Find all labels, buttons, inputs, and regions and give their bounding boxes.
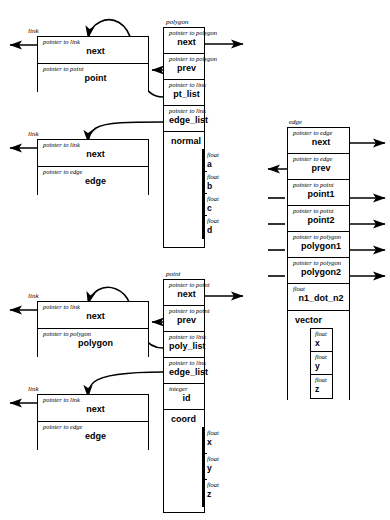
field-type: pointer to polygon (293, 233, 349, 241)
subfield-normal-c: float c (203, 194, 207, 216)
field-type: float (293, 285, 349, 293)
field-name: next (169, 37, 204, 48)
field-name: next (169, 289, 204, 300)
field-point-next: pointer to point next (164, 280, 204, 306)
field-type: pointer to edge (43, 168, 148, 176)
group-name: coord (164, 413, 204, 425)
field-type: pointer to edge (293, 129, 349, 137)
struct-point: pointer to point next pointer to point p… (163, 279, 205, 513)
field-type: pointer to link (169, 333, 204, 341)
field-link-edge-top-next: pointer to link next (38, 140, 148, 167)
field-name: prev (293, 163, 349, 174)
field-name: y (207, 463, 223, 473)
field-edge-prev: pointer to edge prev (288, 154, 349, 180)
field-edge-polygon2: pointer to polygon polygon2 (288, 258, 349, 284)
struct-link-edge-bottom: pointer to link next pointer to edge edg… (37, 394, 149, 450)
field-type: pointer to link (43, 303, 148, 311)
field-edge-n1-dot-n2: float n1_dot_n2 (288, 284, 349, 311)
field-type: float (315, 353, 332, 361)
field-name: prev (169, 63, 204, 74)
field-polygon-edge-list: pointer to link edge_list (164, 106, 204, 132)
field-name: x (207, 437, 223, 447)
field-name: x (315, 338, 332, 348)
field-link-polygon-next: pointer to link next (38, 302, 148, 329)
field-name: edge_list (169, 367, 204, 378)
field-type: pointer to edge (43, 423, 148, 431)
field-type: pointer to point (169, 307, 204, 315)
subbox-edge-vector: float x float y float z (310, 328, 333, 399)
field-link-point-point: pointer to point point (38, 64, 148, 92)
field-name: n1_dot_n2 (293, 293, 349, 304)
field-name: pt_list (169, 89, 204, 100)
struct-label-edge: edge (289, 118, 302, 126)
field-name: point (43, 73, 148, 84)
field-point-coord: coord float x float y float z (164, 410, 204, 512)
field-name: edge (43, 176, 148, 187)
field-type: pointer to point (293, 207, 349, 215)
diagram-canvas: link pointer to link next pointer to poi… (0, 0, 390, 520)
field-type: pointer to link (169, 107, 204, 115)
struct-polygon: pointer to polygon next pointer to polyg… (163, 27, 205, 248)
field-link-point-next: pointer to link next (38, 37, 148, 64)
field-type: pointer to polygon (169, 29, 204, 37)
field-type: pointer to point (293, 181, 349, 189)
field-type: pointer to link (43, 396, 148, 404)
field-name: polygon (43, 338, 148, 349)
group-name: normal (164, 135, 204, 147)
struct-label-link-point: link (28, 27, 39, 35)
subfield-coord-z: float z (203, 480, 207, 506)
field-name: b (207, 181, 223, 191)
subbox-polygon-normal: float a float b float c float d (202, 149, 204, 239)
struct-label-polygon: polygon (166, 18, 189, 26)
field-name: next (43, 404, 148, 415)
field-name: next (43, 46, 148, 57)
struct-link-edge-top: pointer to link next pointer to edge edg… (37, 139, 149, 195)
field-edge-point1: pointer to point point1 (288, 180, 349, 206)
field-point-id: integer id (164, 384, 204, 410)
field-name: next (43, 311, 148, 322)
struct-label-link-polygon: link (28, 292, 39, 300)
field-edge-point2: pointer to point point2 (288, 206, 349, 232)
field-link-edge-top-edge: pointer to edge edge (38, 167, 148, 195)
field-type: pointer to polygon (169, 55, 204, 63)
field-name: y (315, 361, 332, 371)
struct-label-link-edge-top: link (28, 130, 39, 138)
field-polygon-normal: normal float a float b float c float d (164, 132, 204, 247)
field-point-prev: pointer to point prev (164, 306, 204, 332)
field-type: float (315, 376, 332, 384)
field-name: poly_list (169, 341, 204, 352)
subfield-coord-y: float y (203, 454, 207, 480)
field-name: a (207, 159, 223, 169)
subfield-normal-b: float b (203, 172, 207, 194)
field-type: pointer to polygon (293, 259, 349, 267)
field-name: id (169, 393, 204, 404)
field-link-edge-bottom-edge: pointer to edge edge (38, 422, 148, 450)
subfield-normal-d: float d (203, 216, 207, 238)
field-name: polygon1 (293, 241, 349, 252)
field-name: z (315, 384, 332, 394)
field-polygon-prev: pointer to polygon prev (164, 54, 204, 80)
field-polygon-pt-list: pointer to link pt_list (164, 80, 204, 106)
field-name: point1 (293, 189, 349, 200)
field-name: d (207, 225, 223, 235)
field-edge-next: pointer to edge next (288, 128, 349, 154)
field-name: next (43, 149, 148, 160)
field-type: pointer to link (43, 141, 148, 149)
field-point-edge-list: pointer to link edge_list (164, 358, 204, 384)
field-type: pointer to polygon (43, 330, 148, 338)
field-name: point2 (293, 215, 349, 226)
field-type: pointer to point (43, 65, 148, 73)
field-edge-polygon1: pointer to polygon polygon1 (288, 232, 349, 258)
field-name: edge_list (169, 115, 204, 126)
field-name: edge (43, 431, 148, 442)
field-name: prev (169, 315, 204, 326)
struct-link-point: pointer to link next pointer to point po… (37, 36, 149, 92)
field-point-poly-list: pointer to link poly_list (164, 332, 204, 358)
struct-edge: pointer to edge next pointer to edge pre… (287, 127, 350, 400)
field-type: pointer to link (169, 81, 204, 89)
field-type: float (315, 330, 332, 338)
subfield-coord-x: float x (203, 428, 207, 454)
field-edge-vector: vector float x float y float z (288, 311, 349, 401)
field-name: next (293, 137, 349, 148)
field-type: pointer to edge (293, 155, 349, 163)
